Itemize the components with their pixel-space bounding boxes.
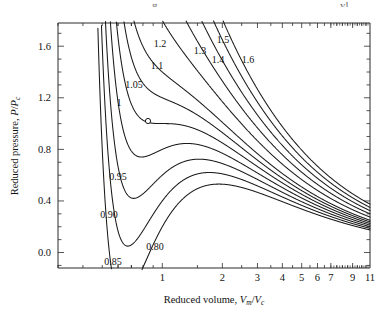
x-axis-tick-labels: 1234567911 (160, 272, 375, 283)
curve-label: 0.85 (104, 256, 122, 267)
curve-label: 1.05 (125, 79, 143, 90)
x-tick-label: 9 (350, 272, 355, 283)
curve-label: 1.5 (217, 34, 230, 45)
y-axis-title: Reduced pressure, P/Pc (9, 96, 22, 195)
curve-label: 1.3 (194, 45, 207, 56)
van-der-waals-isotherms-figure: g yl 1234567911 0.00.40.81.21.6 0.800.85… (0, 0, 385, 326)
isotherm-curve (214, 21, 370, 207)
x-title-text: Reduced volume, (164, 294, 240, 305)
x-tick-label: 3 (255, 272, 260, 283)
x-tick-label: 1 (160, 272, 165, 283)
x-title-sub-c: c (261, 298, 265, 307)
x-axis-title: Reduced volume, Vm/Vc (164, 294, 265, 307)
y-axis-tick-labels: 0.00.40.81.21.6 (38, 41, 52, 258)
curve-label: 0.95 (109, 171, 127, 182)
y-tick-label: 0.8 (38, 144, 51, 155)
chart-canvas: 1234567911 0.00.40.81.21.6 0.800.850.900… (0, 0, 385, 326)
curve-label: 1.2 (154, 38, 167, 49)
curve-label: 0.90 (100, 209, 118, 220)
page-top-fragment-right: yl (340, 0, 349, 7)
y-tick-label: 1.2 (38, 92, 51, 103)
x-tick-label: 11 (365, 272, 375, 283)
x-tick-label: 7 (328, 272, 333, 283)
y-tick-label: 1.6 (38, 41, 51, 52)
x-tick-label: 2 (220, 272, 225, 283)
y-tick-label: 0.0 (38, 247, 51, 258)
curve-label: 1.6 (242, 54, 255, 65)
y-tick-label: 0.4 (38, 195, 52, 206)
x-tick-label: 4 (280, 272, 286, 283)
svg-text:Reduced volume, Vm/Vc: Reduced volume, Vm/Vc (164, 294, 265, 307)
curve-label: 0.80 (146, 241, 164, 252)
x-tick-label: 5 (299, 272, 304, 283)
curve-label: 1.1 (151, 60, 164, 71)
y-title-text: Reduced pressure, (9, 116, 20, 196)
y-title-sub-c: c (13, 96, 22, 100)
isotherm-curve (124, 22, 370, 222)
isotherm-curves (98, 21, 370, 270)
isotherm-curve (98, 28, 370, 269)
curve-label: 1 (117, 97, 122, 108)
isotherm-curve-labels: 0.800.850.900.9511.051.11.21.31.41.51.6 (100, 34, 254, 267)
curve-label: 1.4 (212, 54, 225, 65)
critical-point-marker (145, 118, 150, 123)
svg-text:Reduced pressure, P/Pc: Reduced pressure, P/Pc (9, 96, 22, 195)
x-tick-label: 6 (315, 272, 320, 283)
page-top-fragment-left: g (152, 0, 158, 7)
isotherm-curve (116, 22, 370, 223)
